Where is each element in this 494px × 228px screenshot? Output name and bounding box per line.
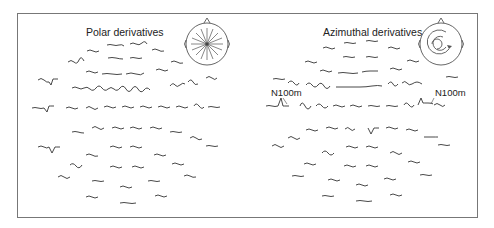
polar-waveforms — [32, 42, 220, 204]
radial-arrows-head-icon — [185, 18, 230, 65]
waveform-layer — [0, 0, 494, 228]
figure: Polar derivatives Azimuthal derivatives … — [0, 0, 494, 228]
azimuthal-waveforms — [266, 41, 458, 202]
circular-arrows-head-icon — [419, 18, 464, 65]
